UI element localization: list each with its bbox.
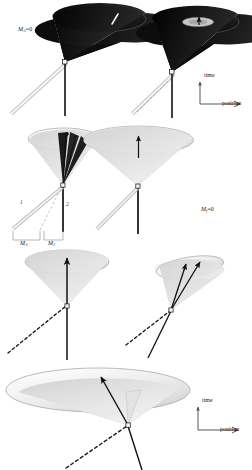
ray-label-1: 1: [20, 199, 23, 205]
apex-marker-mid-right: [136, 184, 140, 188]
open-null-ray-left: [10, 63, 67, 115]
panel-low-left: [8, 249, 109, 360]
open-null-ray-right: [131, 73, 175, 115]
wedge-apex-dot: [65, 132, 69, 136]
panel-mid-right: [84, 126, 194, 234]
label-panel-mid-right: Mf=0: [201, 206, 214, 213]
panel-low-right: [126, 252, 225, 358]
axis-label-position-top: position: [222, 100, 241, 106]
ray-label-2: 2: [66, 201, 69, 207]
figure-canvas: [0, 0, 252, 470]
axis-label-position-bottom: position: [220, 426, 239, 432]
solid-diagonal-ray-low-right: [148, 311, 171, 358]
cone-inner-low-right: [159, 259, 225, 310]
solid-diagonal-ray-bottom: [128, 426, 142, 470]
light-cone-figure: MA=0 Mf=0 1 2 MA M1 time position time p…: [0, 0, 252, 470]
bracket-label-right: M1: [48, 240, 55, 247]
apex-marker-low-right: [169, 308, 173, 312]
apex-marker-bottom: [126, 423, 130, 427]
apex-marker-top-right: [170, 70, 174, 74]
bracket-right: [44, 231, 63, 240]
bracket-label-left: MA: [20, 240, 28, 247]
dashed-diagonal-ray-bottom: [66, 426, 127, 468]
axis-label-time-bottom: time: [202, 397, 213, 403]
open-null-ray-mid-right: [96, 187, 139, 230]
apex-marker-top-left: [63, 60, 67, 64]
bracket-left: [13, 231, 40, 240]
dashed-diagonal-ray-low-left: [8, 306, 66, 353]
open-ray-1: [12, 186, 64, 230]
apex-marker-low-left: [65, 304, 69, 308]
label-panel-top-left: MA=0: [18, 26, 32, 33]
axis-label-time-top: time: [204, 72, 215, 78]
inner-ellipse-core: [189, 19, 208, 24]
apex-marker-mid-left: [61, 183, 65, 187]
panel-bottom: [6, 368, 190, 470]
